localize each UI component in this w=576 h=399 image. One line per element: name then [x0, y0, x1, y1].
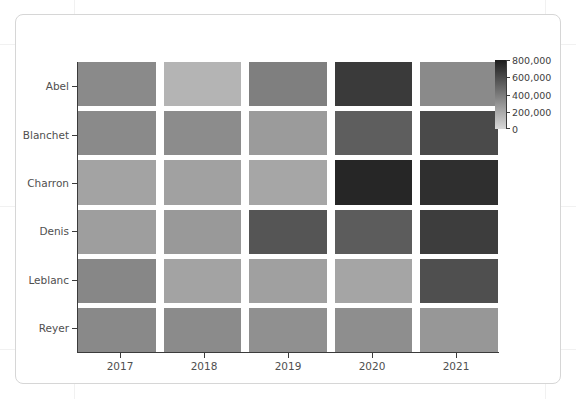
- y-axis-tick-label: Charron: [3, 177, 69, 189]
- plot-area: [78, 62, 498, 352]
- heatmap-cell: [78, 308, 156, 352]
- x-axis-tick-mark: [372, 353, 373, 358]
- heatmap-cell: [420, 111, 498, 155]
- colorbar-tick-mark: [506, 95, 510, 96]
- y-axis-tick-labels: AbelBlanchetCharronDenisLeblancReyer: [0, 0, 69, 399]
- y-axis-line: [77, 62, 78, 353]
- x-axis-tick-mark: [204, 353, 205, 358]
- heatmap-cell: [164, 111, 242, 155]
- y-axis-tick-label: Reyer: [3, 322, 69, 334]
- heatmap-cell: [420, 308, 498, 352]
- heatmap-cell: [420, 210, 498, 254]
- colorbar-tick-mark: [506, 112, 510, 113]
- x-axis-tick-mark: [120, 353, 121, 358]
- y-axis-tick-mark: [72, 135, 77, 136]
- heatmap-cell: [335, 111, 413, 155]
- heatmap-cell: [249, 111, 327, 155]
- heatmap-cell: [78, 160, 156, 204]
- heatmap-cell: [164, 160, 242, 204]
- x-axis-tick-label: 2020: [332, 360, 412, 372]
- y-axis-tick-mark: [72, 231, 77, 232]
- heatmap-figure: AbelBlanchetCharronDenisLeblancReyer 201…: [0, 0, 576, 399]
- heatmap-cell: [78, 62, 156, 106]
- colorbar-tick-label: 200,000: [512, 106, 551, 117]
- x-axis-tick-label: 2018: [164, 360, 244, 372]
- y-axis-tick-label: Abel: [3, 80, 69, 92]
- heatmap-cell: [335, 308, 413, 352]
- heatmap-cell: [164, 308, 242, 352]
- y-axis-tick-mark: [72, 280, 77, 281]
- colorbar-tick-label: 400,000: [512, 89, 551, 100]
- y-axis-tick-mark: [72, 328, 77, 329]
- heatmap-cell: [78, 111, 156, 155]
- y-axis-tick-mark: [72, 183, 77, 184]
- x-axis-tick-mark: [456, 353, 457, 358]
- colorbar: 800,000600,000400,000200,0000: [495, 60, 575, 140]
- heatmap-cell: [249, 62, 327, 106]
- heatmap-cell: [164, 210, 242, 254]
- heatmap-cell: [420, 259, 498, 303]
- heatmap-cell: [164, 259, 242, 303]
- heatmap-cell: [335, 210, 413, 254]
- heatmap-cell: [335, 160, 413, 204]
- y-axis-tick-label: Leblanc: [3, 274, 69, 286]
- y-axis-tick-mark: [72, 86, 77, 87]
- x-axis-tick-mark: [288, 353, 289, 358]
- colorbar-tick-label: 600,000: [512, 72, 551, 83]
- colorbar-tick-label: 0: [512, 124, 518, 135]
- x-axis-tick-label: 2019: [248, 360, 328, 372]
- colorbar-tick-mark: [506, 77, 510, 78]
- y-axis-tick-label: Blanchet: [3, 129, 69, 141]
- heatmap-cell: [249, 259, 327, 303]
- colorbar-tick-label: 800,000: [512, 55, 551, 66]
- heatmap-cell: [420, 62, 498, 106]
- heatmap-cell: [249, 210, 327, 254]
- heatmap-cell: [78, 259, 156, 303]
- y-axis-tick-label: Denis: [3, 225, 69, 237]
- heatmap-cell: [335, 62, 413, 106]
- heatmap-grid: [78, 62, 498, 352]
- heatmap-cell: [249, 308, 327, 352]
- heatmap-cell: [335, 259, 413, 303]
- x-axis-tick-label: 2021: [416, 360, 496, 372]
- colorbar-gradient: [495, 60, 506, 129]
- heatmap-cell: [78, 210, 156, 254]
- heatmap-cell: [249, 160, 327, 204]
- x-axis-tick-label: 2017: [80, 360, 160, 372]
- colorbar-tick-mark: [506, 60, 510, 61]
- colorbar-tick-mark: [506, 128, 510, 129]
- heatmap-cell: [164, 62, 242, 106]
- heatmap-cell: [420, 160, 498, 204]
